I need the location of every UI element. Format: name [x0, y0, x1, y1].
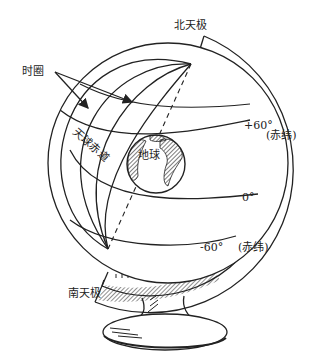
south-pole-label: 南天极: [68, 288, 101, 299]
declination-minus60-label: -60°: [200, 242, 223, 253]
earth-label: 地球: [138, 150, 160, 161]
earth: [127, 135, 185, 193]
declination-label-1: (赤纬): [266, 130, 297, 141]
celestial-globe-diagram: [0, 0, 312, 353]
hour-circle-label: 时圈: [22, 66, 44, 77]
globe-stand: [103, 296, 227, 350]
declination-label-2: (赤纬): [238, 242, 269, 253]
north-pole-label: 北天极: [174, 20, 207, 31]
declination-zero-label: 0°: [242, 192, 255, 203]
